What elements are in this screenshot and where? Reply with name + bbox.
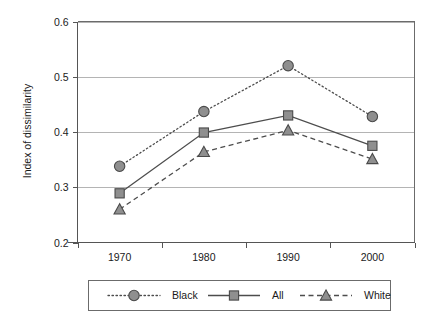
x-tick-label: 1980 — [192, 251, 216, 263]
y-tick-label: 0.6 — [54, 16, 69, 28]
chart-container: 0.20.30.40.50.6 1970198019902000 Index o… — [0, 0, 439, 325]
data-point-black-1980 — [199, 106, 209, 116]
y-tick-label: 0.2 — [54, 237, 69, 249]
data-point-all-1970 — [115, 189, 124, 198]
legend-marker-all — [229, 291, 238, 300]
line-chart: 0.20.30.40.50.6 1970198019902000 Index o… — [0, 0, 439, 325]
x-tick-label: 2000 — [361, 251, 385, 263]
data-point-black-2000 — [367, 111, 377, 121]
data-point-all-1980 — [199, 128, 208, 137]
legend-label-all: All — [272, 289, 284, 301]
y-tick-label: 0.4 — [54, 126, 69, 138]
x-tick-label: 1990 — [276, 251, 300, 263]
data-point-all-2000 — [368, 141, 377, 150]
legend-label-white: White — [364, 289, 391, 301]
data-point-black-1990 — [283, 60, 293, 70]
y-axis-title: Index of dissimilarity — [21, 83, 33, 178]
y-tick-label: 0.5 — [54, 71, 69, 83]
x-tick-label: 1970 — [108, 251, 132, 263]
x-axis-ticks: 1970198019902000 — [79, 243, 416, 263]
y-axis-ticks: 0.20.30.40.50.6 — [54, 16, 78, 249]
legend-label-black: Black — [172, 289, 198, 301]
y-tick-label: 0.3 — [54, 181, 69, 193]
plot-area-background — [77, 21, 414, 242]
legend-marker-black — [129, 290, 139, 300]
data-point-black-1970 — [114, 161, 124, 171]
data-point-all-1990 — [284, 111, 293, 120]
